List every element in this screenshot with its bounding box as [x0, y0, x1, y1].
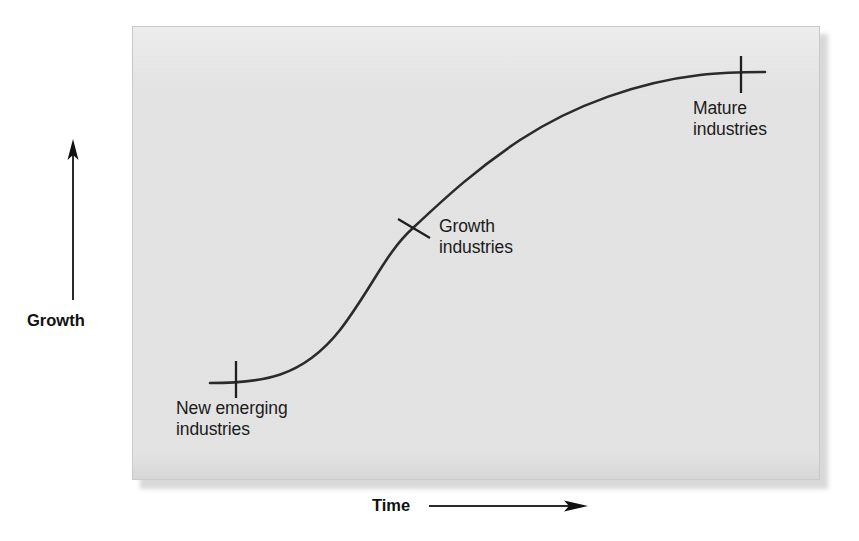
y-axis-title: Growth [27, 311, 85, 330]
growth-axis-arrow-icon [68, 139, 79, 300]
annotation-new-emerging-line1: New emerging [176, 398, 288, 419]
annotation-new-emerging-line2: industries [176, 419, 288, 440]
annotation-growth-line2: industries [439, 237, 513, 258]
annotation-mature-line1: Mature [693, 98, 767, 119]
annotation-new-emerging-industries: New emerging industries [176, 398, 288, 440]
annotation-mature-line2: industries [693, 119, 767, 140]
annotation-growth-line1: Growth [439, 216, 513, 237]
annotation-mature-industries: Mature industries [693, 98, 767, 140]
time-axis-arrow-icon [429, 501, 588, 512]
x-axis-title: Time [372, 496, 410, 515]
s-curve-figure: New emerging industries Growth industrie… [0, 0, 859, 541]
annotation-growth-industries: Growth industries [439, 216, 513, 258]
